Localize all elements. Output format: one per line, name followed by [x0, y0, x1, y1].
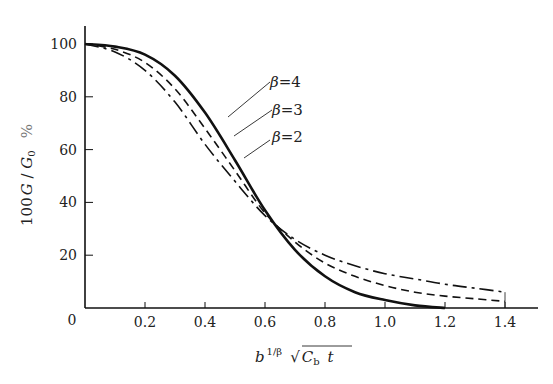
y-axis-title: 100G / G0% [18, 124, 37, 226]
x-tick-label: 0.8 [314, 314, 336, 330]
y-tick-label: 60 [59, 142, 77, 158]
curve-beta4 [85, 44, 445, 308]
svg-text:100G / G0%: 100G / G0% [18, 124, 37, 226]
x-tick-label: 0.6 [254, 314, 276, 330]
x-ticks: 0.20.40.60.81.01.21.4 [134, 302, 516, 330]
y-tick-label: 100 [50, 36, 77, 52]
beta3-label: β=3 [271, 101, 303, 119]
x-tick-label: 1.4 [494, 314, 516, 330]
x-tick-label: 1.0 [374, 314, 396, 330]
x-tick-label: 1.2 [434, 314, 456, 330]
y-tick-label: 40 [59, 194, 77, 210]
y-tick-label: 80 [59, 89, 77, 105]
annotation-beta2: β=2 [244, 128, 303, 158]
origin-label: 0 [68, 312, 77, 328]
y-ticks: 20406080100 [50, 36, 93, 263]
y-tick-label: 20 [59, 247, 77, 263]
svg-text:b1/β√Cbt: b1/β√Cbt [255, 346, 335, 367]
beta2-label: β=2 [271, 128, 303, 146]
x-axis-title: b1/β√Cbt [255, 346, 352, 367]
chart: 0.20.40.60.81.01.21.4 20406080100 0 β=4 … [0, 0, 553, 384]
beta4-label: β=4 [269, 73, 301, 91]
x-tick-label: 0.4 [194, 314, 216, 330]
x-tick-label: 0.2 [134, 314, 156, 330]
